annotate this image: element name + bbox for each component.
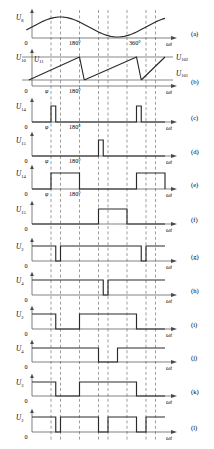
panel-y-label: U8: [16, 14, 24, 23]
waveform-trace-U4: [32, 348, 165, 362]
panel-id-label: (f): [191, 216, 198, 224]
x-axis-label: ωt: [166, 434, 172, 441]
panel-id-label: (j): [191, 354, 197, 362]
reference-level-label-0: U102: [176, 54, 189, 63]
panel-y-label: U15: [16, 206, 27, 215]
panel-id-label: (e): [191, 181, 198, 189]
panel-g: ωtU20(g): [16, 238, 199, 270]
panel-i: ωtU20(i): [16, 306, 197, 338]
panel-id-label: (a): [191, 30, 198, 38]
waveform-figure: ωtU80180°360°(a)ωtU100φ180°U11U102U101(b…: [0, 0, 214, 449]
waveform-trace-U10: [29, 57, 165, 80]
x-tick-label-1: 360°: [129, 39, 141, 46]
y-axis-arrow: [30, 340, 34, 344]
origin-zero-label: 0: [25, 39, 28, 46]
panel-id-label: (i): [191, 321, 197, 329]
panel-y-label: U14: [16, 103, 27, 112]
origin-zero-label: 0: [25, 363, 28, 370]
panel-id-label: (l): [191, 424, 197, 432]
panel-a: ωtU80180°360°(a): [16, 9, 198, 47]
y-axis-arrow: [30, 238, 34, 242]
waveform-trace-U14: [32, 173, 165, 189]
panel-id-label: (d): [191, 148, 199, 156]
y-axis-arrow: [30, 409, 34, 413]
y-axis-arrow: [30, 49, 34, 53]
origin-zero-label: 0: [25, 87, 28, 94]
panel-y-label: U2: [16, 243, 24, 252]
origin-zero-label: 0: [25, 262, 28, 269]
panel-d: ωtU150φ180°(d): [16, 132, 199, 165]
y-axis-arrow: [30, 272, 34, 276]
y-axis-arrow: [30, 9, 34, 13]
x-tick-label-0: φ: [45, 123, 49, 130]
y-axis-arrow: [30, 201, 34, 205]
y-axis-arrow: [30, 165, 34, 169]
origin-zero-label: 0: [25, 433, 28, 440]
panel-y-label: U4: [16, 345, 24, 354]
panel-y-label: U2: [16, 311, 24, 320]
origin-zero-label: 0: [25, 296, 28, 303]
x-tick-label-1: 180°: [69, 123, 81, 130]
origin-zero-label: 0: [25, 123, 28, 130]
x-axis-label: ωt: [166, 88, 172, 95]
panel-y-label: U10: [16, 54, 27, 63]
waveform-trace-U8: [26, 17, 165, 37]
waveform-trace-U2: [32, 314, 165, 329]
x-axis-label: ωt: [166, 398, 172, 405]
panel-j: ωtU40(j): [16, 340, 197, 371]
x-tick-label-0: φ: [45, 87, 49, 94]
waveform-trace-U2: [32, 417, 165, 432]
y-axis-arrow: [30, 98, 34, 102]
x-axis-label: ωt: [166, 297, 172, 304]
x-tick-label-0: φ: [45, 190, 49, 197]
panel-y-label: U14: [16, 170, 27, 179]
origin-zero-label: 0: [25, 225, 28, 232]
x-axis-label: ωt: [166, 40, 172, 47]
x-axis-label: ωt: [166, 191, 172, 198]
waveform-trace-U15: [32, 209, 165, 224]
origin-zero-label: 0: [25, 330, 28, 337]
x-axis-label: ωt: [166, 364, 172, 371]
panel-e: ωtU140φ180°(e): [16, 165, 198, 198]
waveform-trace-U15: [32, 140, 165, 156]
panel-h: ωtU40(h): [16, 272, 199, 304]
reference-level-label-1: U101: [176, 70, 189, 79]
panel-c: ωtU140φ180°(c): [16, 98, 198, 131]
panel-y-label: U2: [16, 414, 24, 423]
x-tick-label-1: 180°: [69, 190, 81, 197]
y-axis-arrow: [30, 306, 34, 310]
panel-id-label: (g): [191, 253, 199, 261]
y-axis-arrow: [30, 132, 34, 136]
origin-zero-label: 0: [25, 397, 28, 404]
panel-f: ωtU150(f): [16, 201, 198, 233]
x-tick-label-1: 180°: [69, 87, 81, 94]
x-axis-label: ωt: [166, 331, 172, 338]
x-tick-label-1: 180°: [69, 157, 81, 164]
panel-b: ωtU100φ180°U11U102U101(b): [16, 49, 199, 95]
panel-id-label: (c): [191, 114, 198, 122]
panel-l: ωtU20(l): [16, 409, 197, 441]
panel-id-label: (h): [191, 287, 199, 295]
panel-y-label: U15: [16, 137, 27, 146]
panel-id-label: (k): [191, 388, 199, 396]
waveform-svg: ωtU80180°360°(a)ωtU100φ180°U11U102U101(b…: [0, 0, 214, 449]
panel-y-label: U3: [16, 379, 24, 388]
x-axis-label: ωt: [166, 124, 172, 131]
panel-id-label: (b): [191, 78, 199, 86]
panel-k: ωtU30(k): [16, 374, 199, 405]
x-tick-label-0: φ: [45, 157, 49, 164]
panel-y-label: U4: [16, 277, 24, 286]
x-axis-label: ωt: [166, 158, 172, 165]
y-axis-arrow: [30, 374, 34, 378]
x-tick-label-0: 180°: [69, 39, 81, 46]
origin-zero-label: 0: [25, 190, 28, 197]
x-axis-label: ωt: [166, 226, 172, 233]
x-axis-label: ωt: [166, 263, 172, 270]
origin-zero-label: 0: [25, 157, 28, 164]
